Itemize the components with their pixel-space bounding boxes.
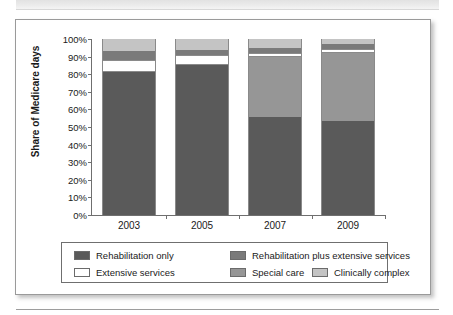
legend-item[interactable]: Rehabilitation only — [74, 248, 174, 262]
legend-swatch-icon — [74, 268, 90, 277]
bar-segment[interactable] — [176, 39, 228, 50]
y-tick-label: 80% — [50, 69, 92, 79]
legend-label: Extensive services — [96, 267, 175, 278]
x-tick-mark — [312, 215, 313, 219]
x-tick-mark — [239, 215, 240, 219]
x-tick-mark — [385, 215, 386, 219]
legend-swatch-icon — [312, 268, 328, 277]
bar-segment[interactable] — [103, 51, 155, 60]
bar-segment[interactable] — [103, 72, 155, 215]
legend-item[interactable]: Extensive services — [74, 265, 175, 279]
y-tick-mark — [88, 180, 92, 181]
legend-label: Clinically complex — [334, 267, 410, 278]
y-tick-label: 20% — [50, 175, 92, 185]
plot-area: 100%90%80%70%60%50%40%30%20%10%0% 200320… — [92, 39, 384, 215]
y-tick-label: 90% — [50, 52, 92, 62]
bar-segment[interactable] — [249, 57, 301, 117]
x-tick-label-2007: 2007 — [240, 220, 310, 231]
y-tick-mark — [88, 109, 92, 110]
bar-2005[interactable] — [175, 39, 229, 215]
y-tick-mark — [88, 162, 92, 163]
bar-segment[interactable] — [249, 117, 301, 215]
y-tick-label: 40% — [50, 140, 92, 150]
legend-swatch-icon — [230, 251, 246, 260]
x-tick-label-2009: 2009 — [313, 220, 383, 231]
y-tick-mark — [88, 74, 92, 75]
bar-segment[interactable] — [103, 39, 155, 51]
y-axis-title: Share of Medicare days — [30, 22, 41, 182]
y-tick-label: 100% — [50, 34, 92, 44]
legend-item[interactable]: Special care — [230, 265, 304, 279]
y-tick-mark — [88, 215, 92, 216]
legend-swatch-icon — [74, 251, 90, 260]
y-tick-mark — [88, 39, 92, 40]
chart-figure-frame: Share of Medicare days 100%90%80%70%60%5… — [15, 19, 431, 295]
bar-segment[interactable] — [103, 60, 155, 72]
bar-2009[interactable] — [321, 39, 375, 215]
bottom-rule — [16, 309, 439, 310]
y-tick-label: 60% — [50, 104, 92, 114]
y-tick-label: 0% — [50, 210, 92, 220]
bar-2007[interactable] — [248, 39, 302, 215]
legend-label: Rehabilitation only — [96, 250, 174, 261]
legend-swatch-icon — [230, 268, 246, 277]
x-tick-label-2003: 2003 — [94, 220, 164, 231]
legend-item[interactable]: Clinically complex — [312, 265, 410, 279]
bar-segment[interactable] — [176, 65, 228, 215]
top-banner — [16, 0, 439, 10]
legend-label: Rehabilitation plus extensive services — [252, 250, 410, 261]
chart-legend: Rehabilitation onlyRehabilitation plus e… — [61, 242, 388, 283]
y-tick-mark — [88, 57, 92, 58]
y-tick-mark — [88, 197, 92, 198]
x-tick-label-2005: 2005 — [167, 220, 237, 231]
y-tick-label: 50% — [50, 122, 92, 132]
y-tick-label: 10% — [50, 192, 92, 202]
bar-2003[interactable] — [102, 39, 156, 215]
bar-segment[interactable] — [249, 39, 301, 48]
y-tick-label: 70% — [50, 87, 92, 97]
legend-item[interactable]: Rehabilitation plus extensive services — [230, 248, 410, 262]
y-tick-mark — [88, 127, 92, 128]
bar-segment[interactable] — [322, 121, 374, 215]
y-tick-mark — [88, 145, 92, 146]
chart-plot-wrapper: Share of Medicare days 100%90%80%70%60%5… — [16, 20, 432, 296]
bar-segment[interactable] — [176, 55, 228, 66]
legend-label: Special care — [252, 267, 304, 278]
y-tick-mark — [88, 92, 92, 93]
bar-segment[interactable] — [322, 53, 374, 121]
y-tick-label: 30% — [50, 157, 92, 167]
x-tick-mark — [166, 215, 167, 219]
